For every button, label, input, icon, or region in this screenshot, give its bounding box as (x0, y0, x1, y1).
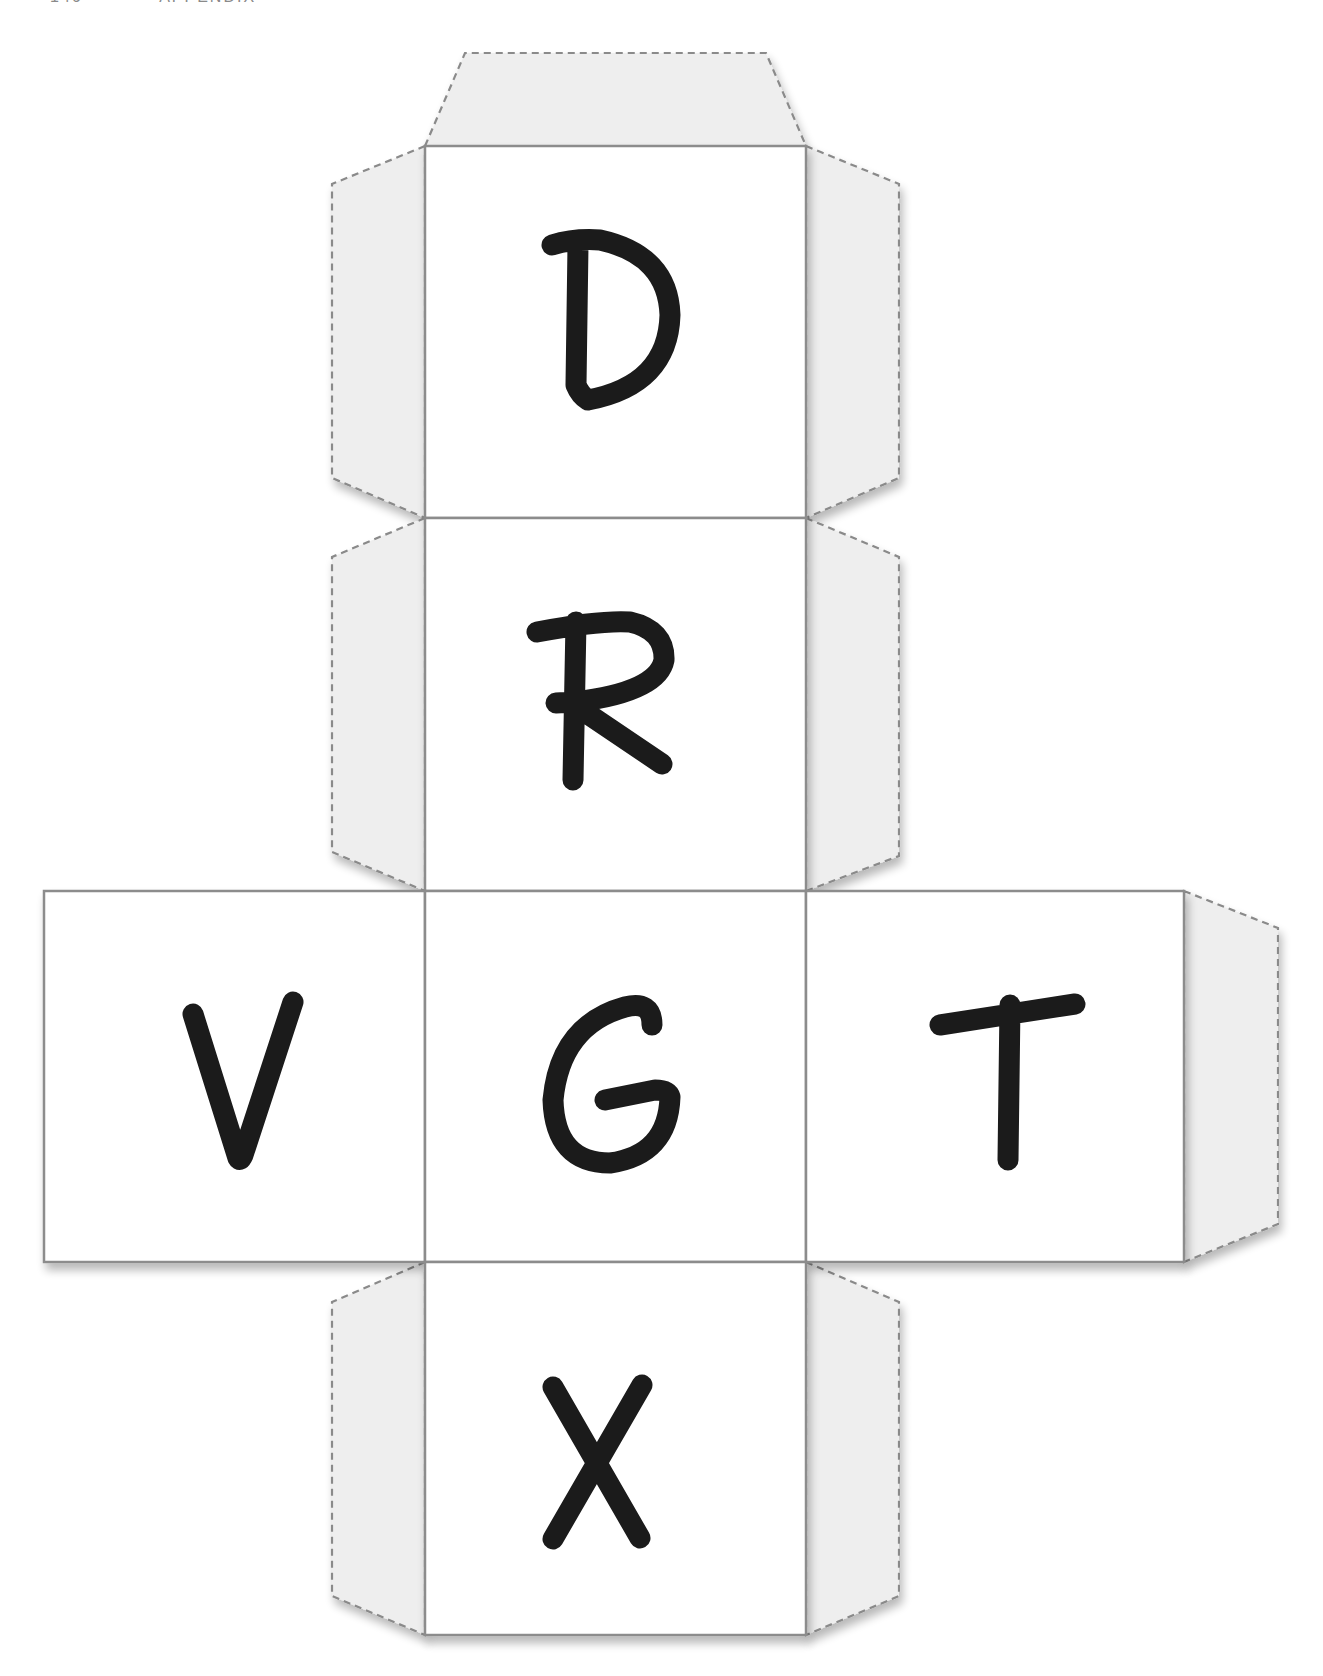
flap-x-right (806, 1262, 899, 1635)
face-right (806, 891, 1184, 1262)
flap-d-left (332, 146, 425, 518)
flap-top (425, 53, 806, 146)
flap-r-left (332, 518, 425, 891)
flap-r-right (806, 518, 899, 891)
flap-t-right (1184, 891, 1278, 1262)
cube-net: D R V G T X (0, 0, 1323, 1676)
cube-faces (44, 146, 1184, 1635)
face-center (425, 891, 806, 1262)
face-left (44, 891, 425, 1262)
flap-x-left (332, 1262, 425, 1635)
flap-d-right (806, 146, 899, 518)
face-top (425, 146, 806, 518)
